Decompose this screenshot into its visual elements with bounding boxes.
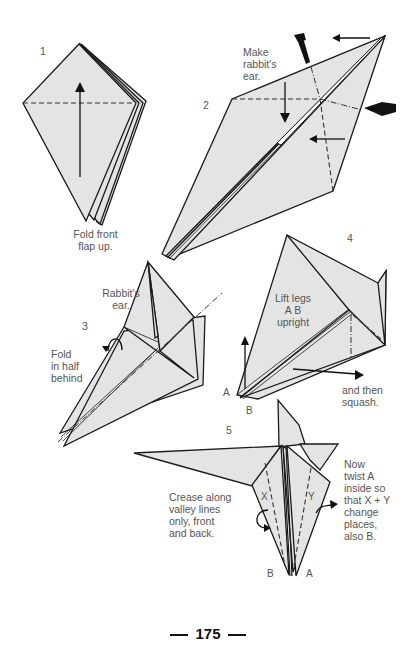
step5-diagram [134,400,338,576]
step-number-3: 3 [82,320,88,332]
step5-caption-crease: Crease along valley lines only, front an… [169,491,231,539]
step3-caption-fold-behind: Fold in half behind [51,348,83,384]
step4-caption-squash: and then squash. [342,384,383,408]
step5-caption-twist: Now twist A inside so that X + Y change … [344,458,390,542]
folio-dash-left [170,634,188,636]
push-arrow-icon [364,102,396,116]
page-number: 175 [0,625,416,642]
step2-caption: Make rabbit's ear. [243,46,277,82]
step1-caption: Fold front flap up. [58,228,133,252]
step-number-1: 1 [40,45,46,57]
step-number-5: 5 [226,424,232,436]
point-label-y: Y [308,491,315,502]
point-label-a: A [223,387,230,398]
step3-caption-rabbit-ear: Rabbit's ear. [96,287,146,311]
folio-dash-right [228,634,246,636]
point-label-b: B [246,405,253,416]
point-label-a-bottom: A [306,568,313,579]
step4-caption-lift-legs: Lift legs A B upright [269,292,317,328]
step-number-4: 4 [347,232,353,244]
point-label-b-bottom: B [267,568,274,579]
step-number-2: 2 [203,99,209,111]
point-label-x: X [261,491,268,502]
step2-diagram [162,33,396,260]
step1-diagram [23,44,146,225]
page-number-text: 175 [195,625,220,642]
